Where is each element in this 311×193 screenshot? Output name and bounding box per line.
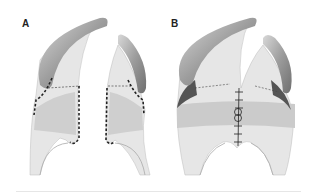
sutured-palate-illustration <box>155 0 310 180</box>
panel-b: B <box>155 0 310 180</box>
cleft-flaps-illustration <box>0 0 155 180</box>
panel-a: A <box>0 0 155 180</box>
bottom-divider <box>16 191 301 192</box>
